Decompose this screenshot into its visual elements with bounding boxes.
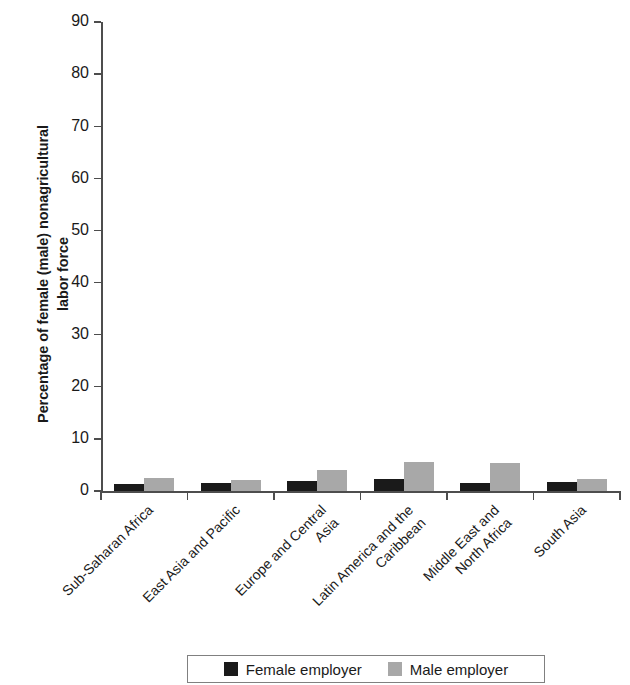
legend-swatch-icon-female [224,662,238,676]
bar [547,482,577,491]
bar [374,479,404,492]
y-tick-label-60: 60 [71,169,89,187]
y-tick-label-50: 50 [71,221,89,239]
y-axis-line [101,22,103,491]
chart-legend: Female employerMale employer [187,655,545,683]
legend-entry-male[interactable]: Male employer [388,661,508,678]
legend-label-male: Male employer [410,661,508,678]
y-tick-label-80: 80 [71,64,89,82]
y-axis-title: Percentage of female (male) nonagricultu… [32,24,76,524]
bar [460,483,490,491]
bar [144,478,174,491]
y-tick-label-20: 20 [71,377,89,395]
y-tick-80: 80 [94,73,101,74]
legend-label-female: Female employer [246,661,362,678]
legend-swatch-icon-male [388,662,402,676]
bar [577,479,607,491]
y-tick-label-30: 30 [71,325,89,343]
y-tick-label-10: 10 [71,429,89,447]
y-tick-90: 90 [94,21,101,22]
y-tick-label-70: 70 [71,117,89,135]
bar-chart: Percentage of female (male) nonagricultu… [0,0,630,685]
y-tick-label-90: 90 [71,12,89,30]
y-tick-30: 30 [94,334,101,335]
bar [201,483,231,491]
x-axis-labels: Sub-Saharan AfricaEast Asia and PacificE… [0,495,630,635]
bar [287,481,317,491]
bar [231,480,261,491]
plot-area: 0102030405060708090 [101,22,620,491]
bar [404,462,434,491]
bar [114,484,144,491]
y-tick-70: 70 [94,126,101,127]
y-tick-50: 50 [94,230,101,231]
y-tick-10: 10 [94,438,101,439]
y-tick-60: 60 [94,178,101,179]
bar [490,463,520,491]
y-tick-40: 40 [94,282,101,283]
y-tick-label-40: 40 [71,273,89,291]
bar [317,470,347,491]
legend-entry-female[interactable]: Female employer [224,661,362,678]
y-tick-20: 20 [94,386,101,387]
